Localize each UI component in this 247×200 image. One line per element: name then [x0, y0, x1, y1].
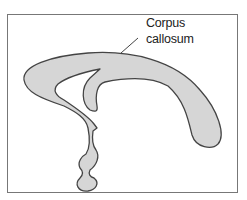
corpus-callosum-shape	[24, 52, 221, 191]
label-leader-line	[121, 38, 138, 53]
label-corpus: Corpus	[146, 16, 185, 31]
corpus-callosum-diagram	[0, 0, 247, 200]
label-callosum: callosum	[146, 32, 194, 47]
